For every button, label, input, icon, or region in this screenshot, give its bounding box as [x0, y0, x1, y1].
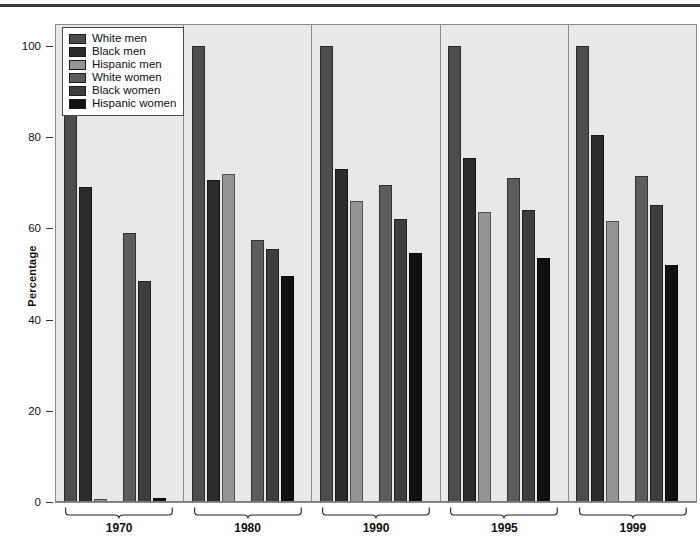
bar-black-women-1999	[650, 205, 663, 502]
legend-label: White men	[92, 32, 147, 45]
y-tick-label: 40	[7, 314, 41, 326]
x-axis-group-label: 1970	[55, 521, 183, 535]
y-tick-mark	[46, 228, 53, 229]
group-brace-icon	[579, 507, 687, 519]
legend-item-white-men: White men	[69, 32, 176, 45]
legend-item-black-women: Black women	[69, 84, 176, 97]
bar-black-men-1999	[591, 135, 604, 502]
x-axis-group-label: 1990	[312, 521, 440, 535]
bar-black-men-1970	[79, 187, 92, 502]
x-axis-group-label: 1995	[440, 521, 568, 535]
legend-swatch-icon	[69, 73, 86, 83]
legend-label: Hispanic men	[92, 58, 162, 71]
y-tick-label: 0	[7, 496, 41, 508]
year-panel-1980	[184, 25, 312, 502]
group-brace-icon	[65, 507, 173, 519]
y-tick-mark	[46, 46, 53, 47]
legend-item-hispanic-women: Hispanic women	[69, 97, 176, 110]
x-axis-group-1980: 1980	[183, 504, 311, 541]
x-axis-group-1999: 1999	[569, 504, 697, 541]
year-panel-1999	[569, 25, 696, 502]
bar-white-men-1990	[320, 46, 333, 502]
x-axis-group-label: 1999	[569, 521, 697, 535]
legend-item-hispanic-men: Hispanic men	[69, 58, 176, 71]
bar-hispanic-women-1990	[409, 253, 422, 502]
y-axis: Percentage 020406080100	[0, 0, 55, 541]
bar-hispanic-women-1999	[665, 265, 678, 502]
bar-hispanic-men-1999	[606, 221, 619, 502]
bar-hispanic-men-1995	[478, 212, 491, 502]
bar-hispanic-men-1980	[222, 174, 235, 502]
bar-hispanic-women-1995	[537, 258, 550, 502]
y-tick-mark	[46, 320, 53, 321]
bar-black-men-1980	[207, 180, 220, 502]
y-tick-mark	[46, 137, 53, 138]
bar-hispanic-men-1990	[350, 201, 363, 502]
x-axis-group-1990: 1990	[312, 504, 440, 541]
legend-label: Hispanic women	[92, 97, 176, 110]
bar-black-women-1995	[522, 210, 535, 502]
legend-label: Black men	[92, 45, 146, 58]
bar-hispanic-women-1980	[281, 276, 294, 502]
y-tick-label: 20	[7, 405, 41, 417]
bar-white-women-1999	[635, 176, 648, 502]
bar-black-women-1980	[266, 249, 279, 502]
x-axis-group-1970: 1970	[55, 504, 183, 541]
bar-white-women-1970	[123, 233, 136, 502]
bar-group	[320, 25, 432, 502]
year-panel-1990	[312, 25, 440, 502]
legend-item-black-men: Black men	[69, 45, 176, 58]
group-brace-icon	[450, 507, 558, 519]
grouped-bar-chart: Percentage 020406080100 White menBlack m…	[0, 0, 700, 541]
x-axis: 19701980199019951999	[55, 504, 697, 541]
bar-group	[576, 25, 688, 502]
bar-black-men-1990	[335, 169, 348, 502]
bar-group	[448, 25, 560, 502]
bar-white-women-1995	[507, 178, 520, 502]
y-tick-label: 60	[7, 222, 41, 234]
bar-black-women-1970	[138, 281, 151, 502]
bar-white-men-1995	[448, 46, 461, 502]
legend-label: White women	[92, 71, 162, 84]
y-tick-label: 80	[7, 131, 41, 143]
legend-swatch-icon	[69, 60, 86, 70]
legend-swatch-icon	[69, 34, 86, 44]
legend-swatch-icon	[69, 47, 86, 57]
y-tick-label: 100	[7, 40, 41, 52]
bar-group	[192, 25, 304, 502]
bar-white-women-1990	[379, 185, 392, 502]
bar-black-men-1995	[463, 158, 476, 502]
group-brace-icon	[194, 507, 302, 519]
x-axis-group-label: 1980	[183, 521, 311, 535]
group-brace-icon	[322, 507, 430, 519]
bar-white-women-1980	[251, 240, 264, 502]
bar-white-men-1999	[576, 46, 589, 502]
legend-swatch-icon	[69, 99, 86, 109]
axis-baseline	[56, 501, 696, 502]
bar-white-men-1980	[192, 46, 205, 502]
legend-label: Black women	[92, 84, 160, 97]
legend-item-white-women: White women	[69, 71, 176, 84]
y-tick-mark	[46, 411, 53, 412]
year-panel-1995	[441, 25, 569, 502]
legend-swatch-icon	[69, 86, 86, 96]
bar-black-women-1990	[394, 219, 407, 502]
chart-legend: White menBlack menHispanic menWhite wome…	[62, 27, 184, 116]
y-tick-mark	[46, 502, 53, 503]
x-axis-group-1995: 1995	[440, 504, 568, 541]
